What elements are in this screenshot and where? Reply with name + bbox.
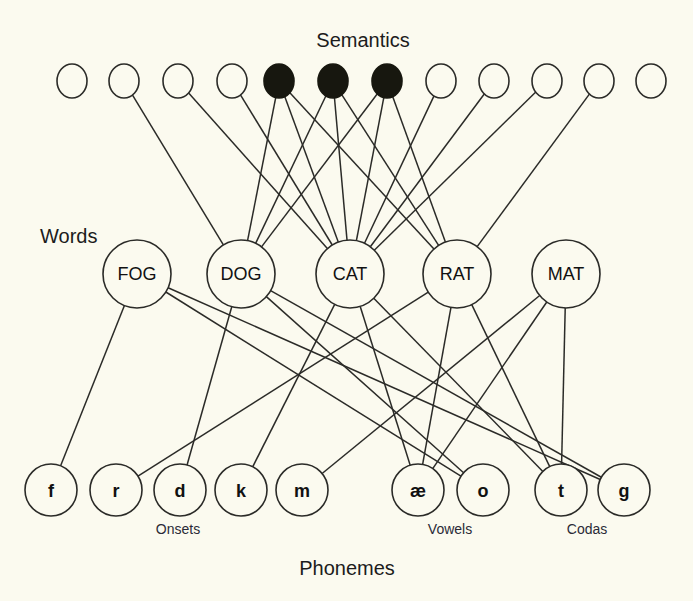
phonemes-title: Phonemes — [299, 557, 395, 579]
phoneme-label-f: f — [48, 481, 55, 501]
semantic-node-s8[interactable] — [426, 64, 456, 98]
phoneme-label-d: d — [175, 481, 186, 501]
phoneme-label-r: r — [112, 481, 119, 501]
phoneme-label-o: o — [478, 481, 489, 501]
phoneme-label-ae: æ — [410, 481, 426, 501]
edge-s5-DOG — [248, 96, 277, 241]
words-to-phonemes-edges — [61, 288, 602, 480]
phoneme-label-k: k — [236, 481, 247, 501]
edge-MAT-ae — [433, 302, 547, 469]
edge-RAT-t — [472, 305, 550, 467]
edge-CAT-k — [253, 304, 335, 466]
semantic-node-s5-active[interactable] — [264, 64, 294, 98]
phoneme-node-layer: frdkmæotg — [25, 464, 650, 516]
edge-MAT-t — [562, 308, 566, 464]
edge-s4-CAT — [240, 94, 332, 245]
word-label-MAT: MAT — [548, 264, 585, 284]
word-label-CAT: CAT — [333, 264, 368, 284]
edge-DOG-g — [271, 291, 602, 478]
semantic-node-layer — [57, 64, 666, 98]
onsets-group-label: Onsets — [156, 521, 200, 537]
network-diagram: FOGDOGCATRATMAT frdkmæotg Semantics Word… — [0, 0, 693, 601]
semantic-node-s6-active[interactable] — [318, 64, 348, 98]
semantic-node-s7-active[interactable] — [372, 64, 402, 98]
edge-s9-CAT — [370, 93, 485, 247]
edge-RAT-ae — [423, 307, 451, 464]
semantic-node-s4[interactable] — [217, 64, 247, 98]
words-title: Words — [40, 225, 97, 247]
semantic-node-s11[interactable] — [584, 64, 614, 98]
semantics-title: Semantics — [316, 29, 409, 51]
phoneme-label-t: t — [558, 481, 564, 501]
codas-group-label: Codas — [567, 521, 607, 537]
vowels-group-label: Vowels — [428, 521, 472, 537]
network-svg: FOGDOGCATRATMAT frdkmæotg Semantics Word… — [0, 0, 693, 601]
edge-s6-DOG — [256, 95, 327, 244]
edge-s3-CAT — [188, 92, 327, 248]
edge-MAT-m — [322, 296, 540, 474]
semantic-node-s1[interactable] — [57, 64, 87, 98]
edge-s11-RAT — [477, 93, 590, 247]
phoneme-label-g: g — [619, 481, 630, 501]
word-label-DOG: DOG — [220, 264, 261, 284]
edge-s5-CAT — [284, 95, 338, 242]
semantic-node-s9[interactable] — [479, 64, 509, 98]
phoneme-label-m: m — [294, 481, 310, 501]
edge-FOG-f — [61, 306, 125, 466]
semantic-node-s2[interactable] — [109, 64, 139, 98]
semantic-node-s10[interactable] — [532, 64, 562, 98]
semantic-node-s12[interactable] — [636, 64, 666, 98]
edge-s6-CAT — [334, 96, 347, 240]
word-node-layer: FOGDOGCATRATMAT — [103, 240, 600, 308]
semantics-to-words-edges — [132, 91, 590, 250]
word-label-RAT: RAT — [440, 264, 475, 284]
semantic-node-s3[interactable] — [163, 64, 193, 98]
edge-CAT-t — [374, 298, 543, 471]
word-label-FOG: FOG — [118, 264, 157, 284]
edge-s7-CAT — [356, 96, 384, 241]
